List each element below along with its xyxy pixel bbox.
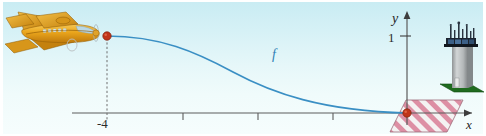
y-axis-label: y [392, 12, 398, 26]
curve-label-f: f [272, 48, 276, 62]
airplane-icon [5, 12, 99, 53]
control-tower-icon [440, 22, 484, 92]
descent-curve [107, 36, 407, 113]
runway-icon [390, 100, 463, 132]
y-tick-label-1: 1 [388, 31, 395, 44]
point-marker-start [103, 32, 111, 40]
figure-canvas: y x 1 -4 f [0, 0, 486, 136]
x-axis-label: x [466, 118, 472, 131]
point-marker-touchdown [403, 109, 411, 117]
x-tick-label-neg4: -4 [97, 117, 108, 130]
figure-artwork [0, 0, 486, 136]
